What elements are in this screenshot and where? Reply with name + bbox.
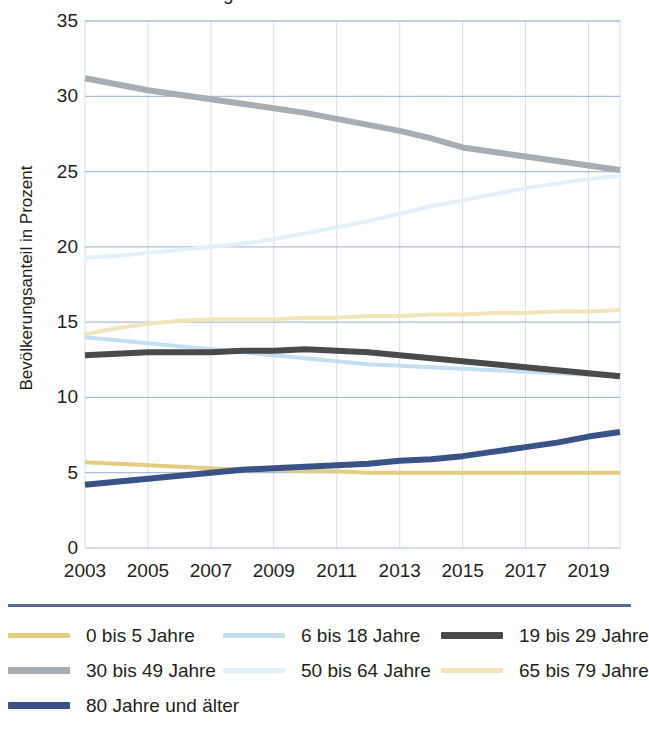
- x-tick-label: 2013: [379, 560, 421, 582]
- legend-row: 30 bis 49 Jahre50 bis 64 Jahre65 bis 79 …: [8, 653, 639, 688]
- series-line: [85, 78, 620, 170]
- plot-canvas: [0, 0, 639, 600]
- x-tick-label: 2005: [127, 560, 169, 582]
- legend-grid: 0 bis 5 Jahre6 bis 18 Jahre19 bis 29 Jah…: [8, 618, 639, 723]
- legend-item[interactable]: 19 bis 29 Jahre: [441, 626, 631, 645]
- series-line: [85, 432, 620, 485]
- legend-item[interactable]: 80 Jahre und älter: [8, 696, 223, 715]
- legend-item[interactable]: 65 bis 79 Jahre: [441, 661, 631, 680]
- legend-label: 6 bis 18 Jahre: [301, 626, 420, 645]
- legend: 0 bis 5 Jahre6 bis 18 Jahre19 bis 29 Jah…: [0, 604, 639, 731]
- chart-figure: 05101520253035 Bevölkerungsanteil in Pro…: [0, 0, 639, 600]
- legend-item[interactable]: 30 bis 49 Jahre: [8, 661, 223, 680]
- legend-swatch: [8, 702, 70, 709]
- x-axis-ticks: 200320052007200920112013201520172019: [0, 560, 639, 590]
- legend-item[interactable]: 50 bis 64 Jahre: [223, 661, 441, 680]
- x-tick-label: 2011: [316, 560, 357, 582]
- legend-swatch: [441, 668, 503, 673]
- x-tick-label: 2009: [253, 560, 295, 582]
- legend-row: 0 bis 5 Jahre6 bis 18 Jahre19 bis 29 Jah…: [8, 618, 639, 653]
- legend-swatch: [223, 668, 285, 673]
- legend-swatch: [8, 667, 70, 674]
- x-tick-label: 2007: [190, 560, 232, 582]
- legend-divider-rule: [8, 604, 631, 607]
- x-tick-label: 2019: [567, 560, 609, 582]
- legend-item[interactable]: 6 bis 18 Jahre: [223, 626, 441, 645]
- legend-label: 0 bis 5 Jahre: [86, 626, 195, 645]
- legend-swatch: [441, 632, 503, 639]
- legend-label: 50 bis 64 Jahre: [301, 661, 431, 680]
- x-tick-label: 2015: [442, 560, 484, 582]
- x-tick-label: 2017: [504, 560, 546, 582]
- legend-item[interactable]: 0 bis 5 Jahre: [8, 626, 223, 645]
- legend-label: 19 bis 29 Jahre: [519, 626, 649, 645]
- legend-label: 80 Jahre und älter: [86, 696, 239, 715]
- legend-swatch: [8, 633, 70, 638]
- legend-label: 30 bis 49 Jahre: [86, 661, 216, 680]
- legend-row: 80 Jahre und älter: [8, 688, 639, 723]
- legend-label: 65 bis 79 Jahre: [519, 661, 649, 680]
- legend-swatch: [223, 633, 285, 638]
- x-tick-label: 2003: [64, 560, 106, 582]
- series-line: [85, 176, 620, 257]
